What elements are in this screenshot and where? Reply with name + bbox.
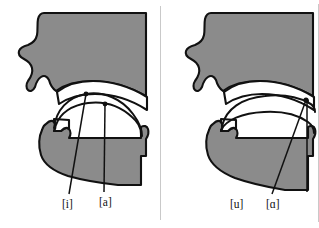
panel-left-drawing xyxy=(0,0,159,228)
panel-right-drawing xyxy=(160,0,319,228)
back-vowels-panel: [u] [ɑ] xyxy=(160,0,319,228)
label-a: [a] xyxy=(99,197,112,209)
label-script-a: [ɑ] xyxy=(266,199,280,211)
front-vowels-panel: [i] [a] xyxy=(0,0,159,228)
vocal-tract-figure: [i] [a] [u] [ɑ] xyxy=(0,0,319,228)
label-u: [u] xyxy=(230,199,243,211)
leader-line-a xyxy=(104,104,105,192)
label-i: [i] xyxy=(62,199,73,211)
